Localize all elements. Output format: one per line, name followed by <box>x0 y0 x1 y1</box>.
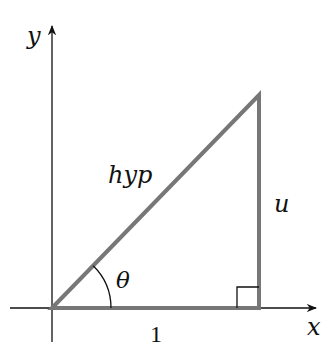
triangle <box>52 95 259 308</box>
hypotenuse-label: hyp <box>108 161 152 189</box>
triangle-diagram: y x hyp u 1 θ <box>0 0 324 364</box>
opposite-side-label: u <box>274 190 289 218</box>
x-axis-label: x <box>307 313 321 341</box>
angle-arc <box>93 266 111 308</box>
y-axis-label: y <box>26 22 41 50</box>
angle-label: θ <box>116 267 130 293</box>
right-angle-marker <box>237 287 259 308</box>
adjacent-side-label: 1 <box>150 321 162 347</box>
